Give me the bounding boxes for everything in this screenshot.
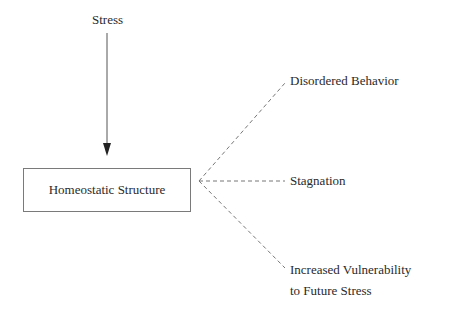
homeostatic-structure-label: Homeostatic Structure	[49, 182, 166, 198]
stress-label: Stress	[92, 12, 123, 28]
outcome-disordered-behavior: Disordered Behavior	[290, 73, 399, 89]
stress-arrow-head	[103, 143, 111, 156]
outcome-vulnerability-line2: to Future Stress	[290, 283, 372, 299]
dashed-line-disordered	[199, 83, 285, 181]
dashed-line-vulnerability	[199, 181, 285, 268]
homeostatic-structure-box: Homeostatic Structure	[23, 168, 191, 212]
outcome-vulnerability-line1: Increased Vulnerability	[290, 262, 411, 278]
outcome-stagnation: Stagnation	[290, 173, 346, 189]
